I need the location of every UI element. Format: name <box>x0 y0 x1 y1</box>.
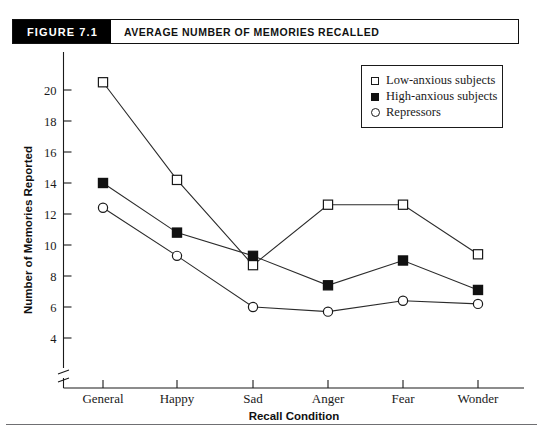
data-point-filled-square <box>398 256 407 265</box>
data-point-filled-square <box>323 281 332 290</box>
legend-item-repressors: Repressors <box>371 104 494 120</box>
y-axis-tick-label: 8 <box>50 270 56 284</box>
data-point-open-square <box>248 261 257 270</box>
data-point-open-circle <box>98 203 107 212</box>
data-point-filled-square <box>98 178 107 187</box>
data-point-open-circle <box>172 251 181 260</box>
x-axis-ticks <box>103 380 478 388</box>
legend-label: Low-anxious subjects <box>386 74 495 87</box>
page-bottom-rule <box>6 424 537 425</box>
x-axis-category-label: Happy <box>160 391 195 406</box>
legend-label: Repressors <box>386 106 441 119</box>
y-axis-tick-label: 10 <box>44 239 57 253</box>
chart-legend: Low-anxious subjects High-anxious subjec… <box>361 65 503 128</box>
data-point-open-square <box>323 200 332 209</box>
data-point-filled-square <box>172 228 181 237</box>
data-point-open-circle <box>248 302 257 311</box>
y-axis-tick-label: 14 <box>44 177 57 191</box>
data-point-filled-square <box>248 251 257 260</box>
axis-break-symbol <box>58 370 69 382</box>
data-point-open-circle <box>323 307 332 316</box>
legend-item-low-anxious: Low-anxious subjects <box>371 72 494 88</box>
y-axis-tick-label: 16 <box>44 146 57 160</box>
y-axis-tick-label: 6 <box>50 301 56 315</box>
x-axis-category-label: Anger <box>312 391 345 406</box>
data-point-open-circle <box>473 299 482 308</box>
series-line-1 <box>103 183 478 290</box>
y-axis-title: Number of Memories Reported <box>22 146 34 314</box>
y-axis-ticks: 468101214161820 <box>44 84 72 346</box>
y-axis-tick-label: 20 <box>44 84 57 98</box>
data-point-open-square <box>398 200 407 209</box>
legend-item-high-anxious: High-anxious subjects <box>371 88 494 104</box>
x-axis-category-label: Fear <box>391 391 415 406</box>
series-line-2 <box>103 208 478 312</box>
data-point-open-square <box>172 175 181 184</box>
data-point-filled-square <box>473 285 482 294</box>
open-circle-icon <box>371 103 383 121</box>
x-axis-category-labels: GeneralHappySadAngerFearWonder <box>82 391 499 406</box>
y-axis-tick-label: 4 <box>50 332 57 346</box>
data-point-open-square <box>473 250 482 259</box>
x-axis-title: Recall Condition <box>249 410 340 422</box>
y-axis-tick-label: 12 <box>44 208 57 222</box>
data-point-open-square <box>98 78 107 87</box>
x-axis-category-label: Wonder <box>458 391 499 406</box>
data-point-open-circle <box>398 296 407 305</box>
y-axis-tick-label: 18 <box>44 115 57 129</box>
x-axis-category-label: Sad <box>243 391 263 406</box>
legend-label: High-anxious subjects <box>386 90 497 103</box>
x-axis-category-label: General <box>82 391 124 406</box>
